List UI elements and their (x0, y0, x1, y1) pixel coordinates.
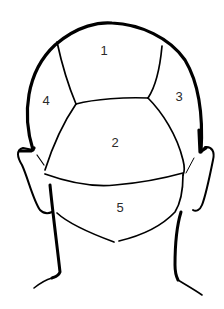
region-label-3: 3 (175, 90, 182, 103)
region2-left-border (45, 104, 76, 170)
region1-left-border (57, 42, 76, 104)
region-label-4: 4 (42, 94, 49, 107)
region1-right-border (148, 46, 162, 98)
region1-bottom-border (76, 98, 148, 104)
head-diagram (0, 0, 224, 309)
right-ear-inner (186, 158, 194, 173)
left-ear-inner (37, 155, 44, 165)
skull-outline (27, 23, 201, 152)
shoulder-right (178, 280, 202, 295)
region-label-2: 2 (111, 136, 118, 149)
neck-right (175, 212, 181, 280)
right-ear (193, 147, 214, 211)
region2-right-border (148, 98, 184, 175)
region-label-5: 5 (116, 201, 123, 214)
region5-top-border (45, 173, 183, 186)
region-label-1: 1 (100, 44, 107, 57)
neck-left (50, 185, 60, 278)
shoulder-left (34, 278, 52, 288)
left-ear (18, 148, 52, 213)
